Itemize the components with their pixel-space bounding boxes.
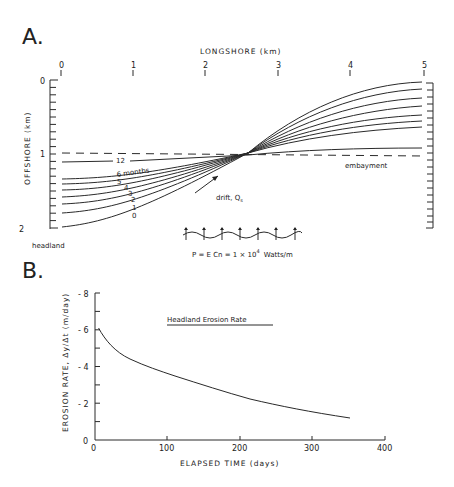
- curve-label-0: 0: [132, 212, 136, 220]
- wave-crest-icon: [183, 227, 302, 240]
- panel-a-ytick-1: 1: [40, 150, 45, 159]
- shoreline-curves: [62, 82, 422, 227]
- curve-label-5: 5: [117, 178, 121, 186]
- curve-1: [62, 89, 422, 213]
- svg-text:4: 4: [348, 61, 353, 70]
- curve-2: [62, 98, 422, 204]
- embayment-label: embayment: [345, 162, 388, 170]
- panel-b-ytick-minus2: - 2: [78, 400, 89, 409]
- panel-b-xtick-200: 200: [232, 444, 247, 453]
- panel-b-ylabel: EROSION RATE, Δy/Δt (m/day): [61, 293, 70, 432]
- panel-a-ylabel: OFFSHORE (km): [23, 111, 32, 185]
- panel-b-ytick-minus6: - 6: [78, 326, 89, 335]
- panel-b-ytick-minus8: - 8: [78, 290, 89, 299]
- panel-a-right-scale: [426, 83, 433, 228]
- panel-b-xtick-0: 0: [91, 444, 96, 453]
- panel-b-x-axis: [95, 436, 385, 440]
- panel-a-x-ticks: 0 1 2 3 4 5: [59, 61, 427, 76]
- svg-text:3: 3: [276, 61, 281, 70]
- panel-b-xtick-400: 400: [377, 444, 392, 453]
- panel-b-xtick-300: 300: [304, 444, 319, 453]
- panel-a-ytick-2: 2: [19, 225, 24, 234]
- svg-text:2: 2: [203, 61, 208, 70]
- svg-text:5: 5: [422, 61, 427, 70]
- wave-power-label: P = E Cn = 1 × 104Watts/m: [192, 248, 293, 259]
- panel-b-label: B.: [22, 258, 44, 283]
- drift-label: drift, Qs: [216, 194, 243, 203]
- svg-text:1: 1: [131, 61, 136, 70]
- headland-label: headland: [32, 242, 65, 250]
- panel-b-xtick-100: 100: [159, 444, 174, 453]
- panel-a-xlabel: LONGSHORE (km): [200, 47, 281, 56]
- panel-b-xlabel: ELAPSED TIME (days): [180, 459, 279, 468]
- curve-label-1: 1: [132, 204, 136, 212]
- panel-b-ytick-0: 0: [83, 437, 88, 446]
- panel-b-y-axis: [95, 293, 100, 440]
- curve-label-12: 12: [116, 157, 125, 165]
- curve-4: [62, 115, 422, 190]
- panel-b-ytick-minus4: - 4: [78, 363, 89, 372]
- panel-a-left-scale: [50, 80, 58, 229]
- erosion-rate-curve: [99, 328, 350, 418]
- panel-b-title: Headland Erosion Rate: [167, 316, 247, 324]
- curve-label-2: 2: [131, 196, 135, 204]
- figure: A. LONGSHORE (km) 0 1 2 3 4 5: [0, 0, 454, 487]
- panel-a-ytick-0: 0: [40, 77, 45, 86]
- panel-a-label: A.: [22, 24, 44, 49]
- svg-text:0: 0: [59, 61, 64, 70]
